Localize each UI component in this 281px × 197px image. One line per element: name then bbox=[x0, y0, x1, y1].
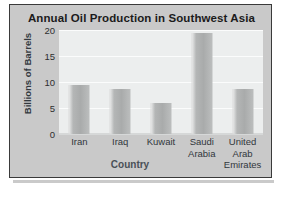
y-tick-label: 5 bbox=[15, 103, 55, 114]
x-tick-label: Iran bbox=[59, 136, 100, 148]
x-tick-label: Iraq bbox=[100, 136, 141, 148]
chart-figure: Annual Oil Production in Southwest Asia … bbox=[0, 0, 281, 197]
x-axis-label: Country bbox=[82, 159, 178, 170]
y-tick-label: 15 bbox=[15, 51, 55, 62]
chart-title: Annual Oil Production in Southwest Asia bbox=[10, 12, 273, 24]
y-tick-label: 0 bbox=[15, 129, 55, 140]
bar bbox=[110, 89, 131, 134]
bar bbox=[191, 33, 212, 134]
panel-shadow bbox=[13, 180, 274, 183]
bar-slot bbox=[100, 30, 141, 134]
bar-slot bbox=[59, 30, 100, 134]
bar bbox=[232, 89, 253, 134]
y-tick-label: 20 bbox=[15, 25, 55, 36]
bar bbox=[150, 103, 171, 134]
y-tick-label: 10 bbox=[15, 77, 55, 88]
chart-panel: Annual Oil Production in Southwest Asia … bbox=[9, 4, 272, 178]
bar bbox=[69, 85, 90, 134]
bar-slot bbox=[141, 30, 182, 134]
bar-series bbox=[59, 30, 263, 134]
bar-slot bbox=[181, 30, 222, 134]
x-axis-ticks: IranIraqKuwaitSaudiArabiaUnitedArabEmira… bbox=[59, 136, 263, 180]
y-axis-ticks: 20151050 bbox=[14, 30, 55, 134]
x-tick-label: Kuwait bbox=[141, 136, 182, 148]
x-tick-label: UnitedArabEmirates bbox=[222, 136, 263, 171]
x-tick-label: SaudiArabia bbox=[181, 136, 222, 159]
bar-slot bbox=[222, 30, 263, 134]
